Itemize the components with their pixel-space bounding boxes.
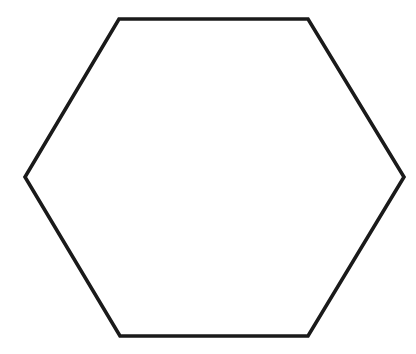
drawing-canvas — [0, 0, 416, 354]
hexagon-svg — [0, 0, 416, 354]
